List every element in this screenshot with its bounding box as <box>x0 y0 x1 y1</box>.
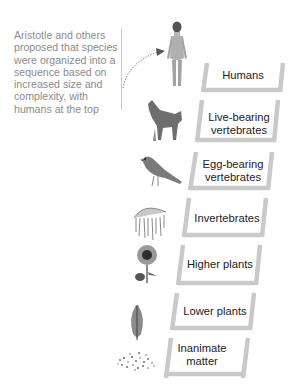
bird-icon <box>140 156 182 186</box>
rung-label-live-bearing-vertebrates: Live-bearing vertebrates <box>198 111 280 136</box>
wolf-icon <box>148 100 182 141</box>
rung-label-invertebrates: Invertebrates <box>187 212 267 225</box>
rung-label-egg-bearing-vertebrates: Egg-bearing vertebrates <box>193 158 273 183</box>
rung-label-higher-plants: Higher plants <box>180 258 260 271</box>
jellyfish-icon <box>134 208 166 240</box>
rung-label-inanimate-matter: Inanimate matter <box>169 342 235 367</box>
rung-label-lower-plants: Lower plants <box>175 305 255 318</box>
fern-leaf-icon <box>131 305 143 340</box>
dotted-arrow-icon <box>123 48 165 88</box>
scala-naturae-diagram <box>0 0 291 389</box>
human-figure-icon <box>167 22 187 87</box>
rung-label-humans: Humans <box>203 69 283 82</box>
mineral-grains-icon <box>117 352 154 371</box>
sunflower-icon <box>135 245 157 283</box>
